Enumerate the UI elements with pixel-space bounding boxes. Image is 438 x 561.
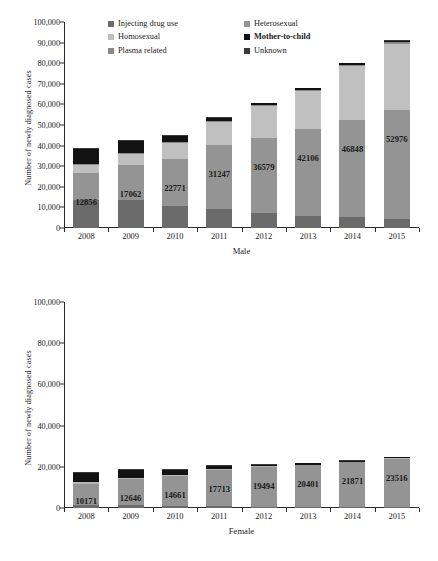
y-axis-line-female [64,302,65,508]
bar-segment-homosexual [162,143,188,158]
bar-segment-injecting-drug-use [162,206,188,228]
y-axis-tick-male: 60,000 [37,100,60,109]
y-axis-tick-mark [60,125,64,126]
bar-segment-heterosexual [384,110,410,219]
x-axis-tick-2013: 2013 [300,512,317,521]
x-axis-tick-mark [153,508,154,512]
x-axis-tick-mark [375,508,376,512]
bar-segment-homosexual [206,122,232,144]
data-label-male-2009: 17062 [120,189,141,199]
y-axis-tick-male: 30,000 [37,162,60,171]
x-axis-tick-2010: 2010 [167,232,184,241]
x-axis-tick-2014: 2014 [344,232,361,241]
bar-segment-homosexual [118,154,144,165]
bar-segment-injecting-drug-use [206,506,232,508]
x-axis-tick-mark [286,508,287,512]
legend-label: Mother-to-child [254,33,310,41]
y-axis-tick-mark [60,83,64,84]
bar-segment-injecting-drug-use [251,507,277,508]
y-axis-tick-male: 10,000 [37,203,60,212]
y-axis-tick-male: 20,000 [37,182,60,191]
y-axis-tick-male: 70,000 [37,79,60,88]
bar-segment-injecting-drug-use [384,219,410,228]
bar-segment-mother-to-child [162,136,188,143]
y-axis-tick-female: 40,000 [37,421,60,430]
legend-male: Injecting drug useHeterosexualHomosexual… [108,20,310,55]
y-axis-tick-mark [60,22,64,23]
y-axis-tick-mark [60,302,64,303]
legend-swatch-icon [244,21,250,27]
x-axis-tick-mark [153,228,154,232]
legend-item-unknown: Unknown [244,47,310,55]
bar-segment-heterosexual [295,129,321,216]
y-axis-tick-female: 80,000 [37,339,60,348]
x-axis-tick-2012: 2012 [255,232,272,241]
x-axis-tick-mark [242,228,243,232]
legend-label: Homosexual [118,33,160,41]
data-label-male-2013: 42106 [297,153,318,163]
x-axis-tick-mark [330,508,331,512]
y-axis-tick-male: 80,000 [37,59,60,68]
y-axis-tick-female: 60,000 [37,380,60,389]
bar-segment-homosexual [295,91,321,129]
x-axis-tick-2013: 2013 [300,232,317,241]
bar-male-2008 [73,148,99,228]
bar-segment-homosexual [251,106,277,138]
x-axis-tick-2008: 2008 [78,232,95,241]
bar-segment-homosexual [384,44,410,111]
x-axis-tick-2014: 2014 [344,512,361,521]
legend-swatch-icon [108,21,114,27]
data-label-female-2015: 23516 [386,473,407,483]
y-axis-tick-mark [60,466,64,467]
data-label-male-2011: 31247 [209,169,230,179]
bar-segment-injecting-drug-use [206,209,232,228]
data-label-female-2012: 19494 [253,481,274,491]
y-axis-tick-mark [60,186,64,187]
x-axis-tick-2015: 2015 [388,512,405,521]
bar-segment-injecting-drug-use [295,507,321,508]
x-axis-tick-mark [64,508,65,512]
data-label-male-2012: 36579 [253,162,274,172]
data-label-female-2011: 17713 [209,484,230,494]
x-axis-tick-mark [419,228,420,232]
legend-label: Injecting drug use [118,20,178,28]
legend-item-heterosexual: Heterosexual [244,20,310,28]
x-axis-tick-mark [197,508,198,512]
bar-segment-injecting-drug-use [295,216,321,228]
bar-segment-heterosexual [251,138,277,213]
x-axis-tick-mark [330,228,331,232]
legend-label: Heterosexual [254,20,298,28]
bar-segment-injecting-drug-use [162,506,188,508]
y-axis-tick-male: 90,000 [37,38,60,47]
y-axis-tick-mark [60,104,64,105]
x-axis-tick-2011: 2011 [211,232,227,241]
legend-item-injecting-drug-use: Injecting drug use [108,20,230,28]
y-axis-label-male: Number of newly diagnosed cases [24,43,33,213]
data-label-female-2013: 20401 [297,479,318,489]
bar-segment-mother-to-child [118,470,144,478]
y-axis-tick-male: 100,000 [33,18,60,27]
legend-item-mother-to-child: Mother-to-child [244,33,310,41]
chart-female: Number of newly diagnosed cases 100,0008… [0,280,438,561]
y-axis-tick-female: 100,000 [33,298,60,307]
y-axis-tick-mark [60,42,64,43]
x-axis-tick-2009: 2009 [122,232,139,241]
x-axis-tick-mark [197,228,198,232]
bar-segment-homosexual [339,66,365,121]
bar-segment-mother-to-child [73,149,99,164]
bar-segment-heterosexual [73,173,99,199]
y-axis-tick-mark [60,145,64,146]
x-axis-tick-2008: 2008 [78,512,95,521]
y-axis-tick-male: 50,000 [37,121,60,130]
x-axis-tick-2009: 2009 [122,512,139,521]
y-axis-tick-female: 20,000 [37,462,60,471]
y-axis-tick-mark [60,425,64,426]
x-axis-tick-2011: 2011 [211,512,227,521]
x-axis-tick-mark [419,508,420,512]
x-axis-tick-2012: 2012 [255,512,272,521]
legend-swatch-icon [108,48,114,54]
data-label-female-2009: 12646 [120,493,141,503]
x-axis-tick-mark [108,508,109,512]
x-axis-tick-2015: 2015 [388,232,405,241]
x-axis-label-male: Male [64,246,419,256]
